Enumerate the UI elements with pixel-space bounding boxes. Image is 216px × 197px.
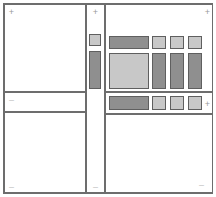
tall-bar-2[interactable] bbox=[170, 53, 184, 89]
left-middle-collapse-icon[interactable]: – bbox=[7, 96, 16, 105]
pane-left-strip[interactable] bbox=[4, 92, 86, 112]
mid-col-tall-bar[interactable] bbox=[89, 51, 101, 89]
wide-dark-bar[interactable] bbox=[109, 36, 149, 49]
strip-wide-bar[interactable] bbox=[109, 96, 149, 110]
right-strip-expand-icon[interactable]: + bbox=[203, 100, 212, 109]
small-square-1[interactable] bbox=[152, 36, 166, 49]
small-square-3[interactable] bbox=[188, 36, 202, 49]
top-left-expand-icon[interactable]: + bbox=[7, 8, 16, 17]
tall-bar-3[interactable] bbox=[188, 53, 202, 89]
wireframe-canvas: +++–+––– bbox=[0, 0, 216, 197]
mid-col-small-square[interactable] bbox=[89, 34, 101, 46]
strip-small-sq-2[interactable] bbox=[170, 96, 184, 110]
tall-bar-1[interactable] bbox=[152, 53, 166, 89]
strip-small-sq-3[interactable] bbox=[188, 96, 202, 110]
pane-middle-column[interactable] bbox=[86, 4, 105, 193]
middle-column-bottom-collapse-icon[interactable]: – bbox=[91, 183, 100, 192]
bottom-left-collapse-icon[interactable]: – bbox=[7, 183, 16, 192]
top-right-expand-icon[interactable]: + bbox=[203, 8, 212, 17]
pane-bottom-left[interactable] bbox=[4, 112, 86, 193]
middle-column-top-expand-icon[interactable]: + bbox=[91, 8, 100, 17]
pane-top-left[interactable] bbox=[4, 4, 86, 92]
large-light-panel[interactable] bbox=[109, 53, 149, 89]
small-square-2[interactable] bbox=[170, 36, 184, 49]
bottom-right-collapse-icon[interactable]: – bbox=[197, 181, 206, 190]
strip-small-sq-1[interactable] bbox=[152, 96, 166, 110]
